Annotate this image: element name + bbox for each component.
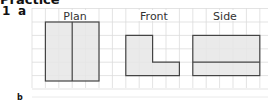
plan-view [45, 22, 99, 81]
side-label: Side [213, 10, 237, 23]
isometric-views-grid: Plan Front Side [0, 0, 268, 102]
plan-label: Plan [63, 10, 86, 23]
front-view [126, 35, 180, 75]
side-view [193, 35, 260, 75]
front-label: Front [140, 10, 169, 23]
